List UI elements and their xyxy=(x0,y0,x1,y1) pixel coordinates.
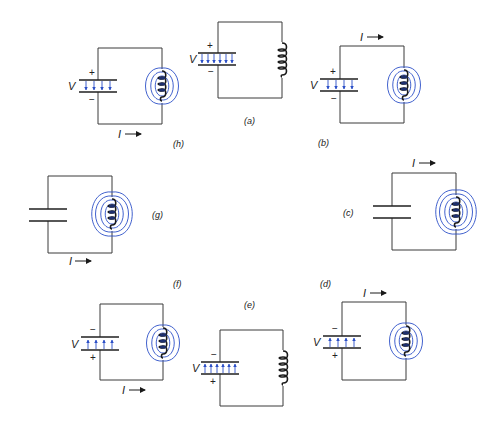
stage-label-d: (d) xyxy=(320,279,331,289)
minus-sign: − xyxy=(89,94,95,105)
voltage-label: V xyxy=(310,79,319,91)
plus-sign: + xyxy=(207,40,213,51)
lc-oscillation-diagram: + − V I (h) + − V (a) xyxy=(0,0,504,431)
voltage-label: V xyxy=(68,80,77,92)
stage-label-f: (f) xyxy=(173,279,182,289)
stage-label-b: (b) xyxy=(318,138,329,148)
plus-sign: + xyxy=(330,66,336,77)
voltage-label: V xyxy=(71,338,80,350)
electric-field-arrows-up xyxy=(88,340,112,349)
current-label: I xyxy=(412,157,415,169)
current-label: I xyxy=(69,255,72,267)
circuit-f: − + V I xyxy=(71,304,180,396)
stage-label-c: (c) xyxy=(343,208,354,218)
inductor-with-field-icon xyxy=(440,194,473,230)
voltage-label: V xyxy=(192,362,201,374)
electric-field-arrows-down xyxy=(328,80,352,89)
minus-sign: − xyxy=(331,93,337,104)
current-label: I xyxy=(363,287,366,299)
inductor-icon xyxy=(279,351,287,385)
voltage-label: V xyxy=(189,53,198,65)
current-label: I xyxy=(122,384,125,396)
inductor-with-field-icon xyxy=(146,68,179,104)
stage-label-h: (h) xyxy=(173,139,184,149)
circuit-g: I (g) xyxy=(29,176,163,267)
electric-field-arrows-up xyxy=(330,338,354,347)
inductor-icon xyxy=(278,43,286,77)
circuit-c: I (c) xyxy=(343,157,476,250)
stage-label-e: (e) xyxy=(244,300,255,310)
current-label: I xyxy=(360,31,363,43)
plus-sign: + xyxy=(210,376,216,387)
plus-sign: + xyxy=(89,67,95,78)
electric-field-arrows-up xyxy=(205,364,235,373)
voltage-label: V xyxy=(313,336,322,348)
minus-sign: − xyxy=(90,324,96,335)
electric-field-arrows-down xyxy=(202,54,232,63)
current-label: I xyxy=(118,128,121,140)
minus-sign: − xyxy=(208,66,214,77)
inductor-with-field-icon xyxy=(390,323,423,359)
circuit-a: + − V (a) xyxy=(189,22,287,126)
minus-sign: − xyxy=(332,323,338,334)
circuit-h: + − V I (h) xyxy=(68,48,184,149)
circuit-b: + − V I (b) xyxy=(310,31,421,148)
inductor-with-field-icon xyxy=(388,67,421,103)
minus-sign: − xyxy=(211,349,217,360)
circuit-e: − + V xyxy=(192,330,288,406)
inductor-with-field-icon xyxy=(147,325,180,361)
stage-label-g: (g) xyxy=(152,210,163,220)
plus-sign: + xyxy=(332,350,338,361)
circuit-d: − + V I xyxy=(313,287,423,380)
electric-field-arrows-down xyxy=(86,81,110,90)
plus-sign: + xyxy=(90,352,96,363)
stage-label-a: (a) xyxy=(244,116,255,126)
